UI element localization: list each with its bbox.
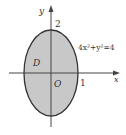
ellipse-diagram: y 2 4x²+y²=4 D O 1 x [0,0,126,135]
y-intercept-label: 2 [55,19,61,29]
x-intercept-label: 1 [80,78,86,88]
y-axis-label: y [38,6,45,16]
equation-label: 4x²+y²=4 [78,43,115,52]
region-label: D [32,58,40,68]
y-axis-arrow-icon [49,5,54,12]
x-axis-label: x [114,75,119,84]
origin-label: O [54,79,62,89]
